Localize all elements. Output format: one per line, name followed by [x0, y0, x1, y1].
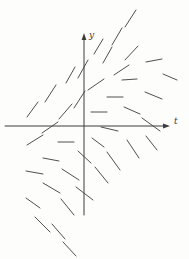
slope-mark — [146, 59, 162, 62]
slope-marks-group — [26, 10, 177, 256]
slope-mark — [112, 28, 122, 45]
slope-mark — [101, 127, 118, 131]
slope-mark — [43, 183, 60, 193]
slope-mark — [124, 107, 140, 114]
slope-mark — [94, 39, 103, 54]
y-axis-arrow-icon — [82, 33, 87, 40]
slope-mark — [142, 118, 160, 131]
slope-mark — [78, 60, 88, 78]
y-axis-label: y — [89, 31, 94, 40]
slope-mark — [62, 169, 79, 180]
slope-mark — [95, 167, 108, 183]
slope-mark — [88, 79, 104, 90]
slope-mark — [125, 10, 136, 27]
slope-mark — [63, 242, 76, 256]
slope-mark — [145, 92, 162, 99]
slope-mark — [125, 46, 138, 60]
slope-mark — [146, 136, 157, 150]
slope-mark — [122, 79, 137, 80]
slope-mark — [163, 74, 177, 80]
direction-field-figure: y t — [0, 0, 189, 259]
slope-mark — [74, 91, 85, 108]
slope-mark — [26, 198, 40, 208]
slope-mark — [42, 122, 58, 133]
slope-mark — [103, 47, 112, 63]
slope-mark — [52, 224, 65, 239]
slope-mark — [26, 171, 43, 174]
slope-mark — [27, 102, 38, 117]
t-axis-label: t — [174, 117, 178, 126]
slope-mark — [66, 67, 75, 83]
slope-mark — [35, 217, 50, 232]
direction-field-svg — [0, 0, 189, 259]
slope-mark — [27, 135, 43, 145]
slope-mark — [114, 65, 129, 75]
t-axis-arrow-icon — [163, 124, 170, 129]
slope-mark — [59, 104, 72, 119]
slope-mark — [92, 138, 104, 147]
slope-mark — [43, 158, 59, 161]
slope-mark — [61, 199, 74, 215]
slope-mark — [127, 140, 139, 158]
slope-mark — [107, 152, 120, 170]
slope-mark — [45, 85, 56, 102]
